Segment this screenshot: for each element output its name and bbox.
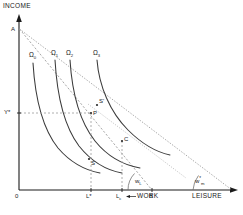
curve-label-omega-2: Ω2 (66, 50, 73, 59)
axes-group (16, 14, 238, 193)
curve-omega-3 (97, 60, 170, 155)
x-axis-arrow-icon (230, 187, 238, 193)
wage-angle-label-market-sub: m (201, 181, 205, 186)
curve-label-omega-1: Ω1 (51, 50, 58, 59)
wage-angle-label-low: wL (135, 178, 142, 186)
wage-angle-label-low-sub: L (139, 181, 141, 186)
x-axis-title-work: WORK (137, 193, 158, 200)
work-direction-arrow-group (126, 195, 136, 198)
curve-label-omega-1-sub: 1 (56, 53, 58, 58)
curve-label-omega-0-sub: 0 (34, 55, 36, 60)
x-tick-label-lc-sub: c (119, 196, 121, 201)
curve-label-omega-3: Ω3 (93, 50, 100, 59)
work-arrow-head-icon (126, 195, 130, 198)
point-label-C: C (124, 136, 128, 142)
indifference-curves-group (33, 60, 170, 173)
y-axis-title: INCOME (3, 3, 31, 10)
x-tick-label-lstar: L* (86, 193, 92, 199)
endowment-label-A: A (11, 26, 15, 32)
curve-omega-1 (55, 60, 122, 173)
marker-point-P (90, 112, 92, 114)
point-label-S: S (91, 160, 95, 166)
point-label-S-prime: S' (99, 98, 104, 104)
marker-point-C (121, 140, 123, 142)
y-axis-arrow-icon (16, 14, 22, 22)
curve-omega-0 (33, 63, 100, 173)
point-label-P: P (93, 110, 97, 116)
marker-point-S (88, 158, 90, 160)
guide-lines-group (20, 113, 122, 189)
x-tick-label-lc: Lc (116, 193, 121, 201)
diagram-svg (0, 0, 243, 215)
marker-point-S-prime (96, 104, 98, 106)
figure-canvas: INCOME A Y* 0 Ω0 Ω1 Ω2 Ω3 S' P C S L* Lc… (0, 0, 243, 215)
wage-angle-low-arc-icon (128, 174, 135, 191)
x-axis-title-leisure: LEISURE (192, 193, 222, 200)
curve-label-omega-2-sub: 2 (71, 53, 73, 58)
y-tick-label-ystar: Y* (4, 109, 10, 115)
wage-angle-label-market: w*m (195, 177, 205, 186)
curve-label-omega-0: Ω0 (29, 52, 36, 61)
origin-label: 0 (15, 193, 18, 199)
curve-label-omega-3-sub: 3 (98, 53, 100, 58)
curve-omega-2 (70, 60, 140, 168)
